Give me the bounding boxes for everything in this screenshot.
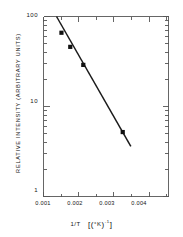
y-tick-label-100: 100 (12, 12, 38, 18)
tick-marks (44, 17, 169, 197)
y-tick-label-1: 1 (12, 187, 38, 193)
axes-frame (44, 17, 169, 197)
x-axis-title: 1/T[(°K)-1] (0, 219, 183, 229)
data-point-marker (59, 31, 63, 35)
data-point-marker (68, 45, 72, 49)
x-axis-title-main: 1/T (70, 221, 80, 227)
chart-figure: RELATIVE INTENSITY (ARBITRARY UNITS) 100… (0, 0, 183, 237)
data-point-marker (121, 130, 125, 134)
data-point-marker (81, 63, 85, 67)
fit-line (57, 17, 131, 147)
regression-line (57, 17, 131, 147)
x-tick-label-3: 0.004 (124, 200, 154, 206)
x-tick-label-2: 0.003 (92, 200, 122, 206)
x-axis-unit-deg: °K (94, 221, 102, 227)
x-tick-label-1: 0.002 (60, 200, 90, 206)
x-tick-label-0: 0.001 (28, 200, 58, 206)
y-tick-label-10: 10 (12, 98, 38, 104)
x-axis-unit-end: ] (110, 220, 113, 229)
